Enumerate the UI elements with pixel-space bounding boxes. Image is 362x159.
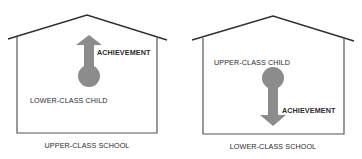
arrow-shaft [268,82,278,116]
achievement-down-arrow-icon [260,67,286,126]
achievement-up-arrow-icon [76,35,102,87]
child-label: UPPER-CLASS CHILD [214,58,290,67]
panel-lower-class-school: UPPER-CLASS CHILD ACHIEVEMENT LOWER-CLAS… [192,16,354,151]
arrow-head-up [76,35,102,45]
achievement-label: ACHIEVEMENT [282,106,336,115]
school-label: UPPER-CLASS SCHOOL [45,141,130,150]
panel-upper-class-school: ACHIEVEMENT LOWER-CLASS CHILD UPPER-CLAS… [8,15,167,150]
arrow-head-down [260,115,286,126]
roof-line [192,16,354,41]
school-label: LOWER-CLASS SCHOOL [230,142,316,151]
child-label: LOWER-CLASS CHILD [30,96,108,105]
arrow-shaft [84,44,94,72]
achievement-label: ACHIEVEMENT [97,48,151,57]
